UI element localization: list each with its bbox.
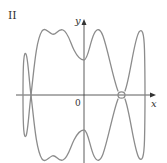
curve-right-lobe-lower xyxy=(125,95,145,159)
plot-canvas: II y x 0 xyxy=(0,0,167,163)
parametric-curve-figure: II y x 0 xyxy=(0,0,167,163)
origin-label: 0 xyxy=(75,98,81,108)
panel-label: II xyxy=(8,9,17,22)
y-axis-arrow-icon xyxy=(82,19,87,25)
x-axis-label: x xyxy=(151,98,157,109)
curve-upper-main xyxy=(31,29,118,95)
curve-right-lobe-upper xyxy=(125,31,145,95)
y-axis-label: y xyxy=(74,15,81,26)
x-axis-arrow-icon xyxy=(150,93,156,98)
